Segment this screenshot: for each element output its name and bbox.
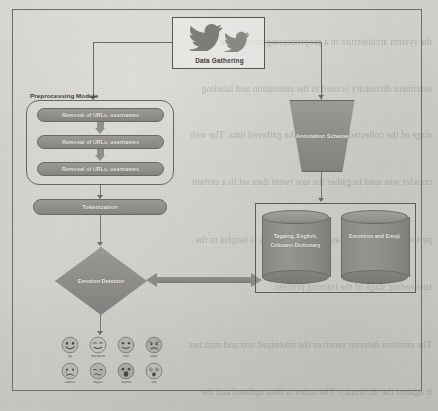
- emotion-item[interactable]: surprise: [112, 362, 140, 388]
- node-data-gathering[interactable]: Data Gathering: [172, 17, 265, 69]
- preprocessing-module-title: Preprocessing Module: [30, 92, 98, 99]
- node-preprocessing-step-2[interactable]: Removal of URLs, usernames: [37, 135, 164, 149]
- disgust-emoji-icon: [89, 362, 107, 380]
- emotion-item[interactable]: trust: [112, 336, 140, 362]
- emotion-caption: anger: [150, 355, 157, 358]
- connector-tokenization-detector: [100, 215, 101, 243]
- node-emotion-detector[interactable]: Emotion Detector: [55, 247, 147, 315]
- node-database-dictionary[interactable]: Tagalog, English, Cebuano Dictionary: [262, 210, 329, 284]
- emotion-item[interactable]: joy: [56, 336, 84, 362]
- connector-dg-to-right: [265, 42, 322, 43]
- emotion-item[interactable]: fear: [140, 362, 168, 388]
- annotation-scheme-label: Annotation Scheme: [288, 100, 356, 172]
- node-database-emoticon-emoji[interactable]: Emoticon and Emoji: [341, 210, 408, 284]
- emotion-detector-label: Emotion Detector: [55, 247, 147, 315]
- anticipation-emoji-icon: [89, 336, 107, 354]
- emotion-item[interactable]: disgust: [84, 362, 112, 388]
- connector-dg-to-left: [93, 42, 173, 43]
- emotion-caption: sadness: [65, 381, 76, 384]
- anger-emoji-icon: [145, 336, 163, 354]
- emotion-output-grid: joy anticipation trust anger: [56, 336, 168, 390]
- connector-annotation-databases: [321, 172, 322, 200]
- node-annotation-scheme[interactable]: Annotation Scheme: [288, 100, 356, 172]
- cylinder-bottom: [341, 270, 408, 284]
- cylinder-body: [341, 217, 410, 277]
- node-preprocessing-step-3[interactable]: Removal of URLs, usernames: [37, 162, 164, 176]
- arrowhead-to-databases: [318, 198, 324, 202]
- joy-emoji-icon: [61, 336, 79, 354]
- emotion-caption: fear: [151, 381, 156, 384]
- emotion-item[interactable]: anticipation: [84, 336, 112, 362]
- emotion-item[interactable]: anger: [140, 336, 168, 362]
- emotion-caption: joy: [68, 355, 72, 358]
- arrowhead-to-annotation: [318, 95, 324, 99]
- arrowhead-to-emotions: [97, 331, 103, 335]
- emotion-caption: anticipation: [91, 355, 106, 358]
- emotion-item[interactable]: sadness: [56, 362, 84, 388]
- node-preprocessing-step-1[interactable]: Removal of URLs, usernames: [37, 108, 164, 122]
- sadness-emoji-icon: [61, 362, 79, 380]
- arrowhead-to-detector: [97, 242, 103, 246]
- emotion-caption: disgust: [93, 381, 102, 384]
- twitter-bird-icon: [173, 21, 266, 53]
- cylinder-top: [262, 210, 329, 224]
- emotion-caption: trust: [123, 355, 129, 358]
- surprise-emoji-icon: [117, 362, 135, 380]
- database-dictionary-label: Tagalog, English, Cebuano Dictionary: [264, 232, 327, 250]
- fear-emoji-icon: [145, 362, 163, 380]
- emotion-caption: surprise: [121, 381, 131, 384]
- connector-right-down: [321, 42, 322, 100]
- node-tokenization[interactable]: Tokenization: [33, 199, 167, 215]
- database-emoticon-emoji-label: Emoticon and Emoji: [343, 232, 406, 241]
- cylinder-top: [341, 210, 408, 224]
- data-gathering-label: Data Gathering: [173, 57, 266, 64]
- trust-emoji-icon: [117, 336, 135, 354]
- cylinder-bottom: [262, 270, 329, 284]
- connector-detector-databases: [156, 277, 252, 283]
- arrowhead-bi-left: [146, 273, 157, 287]
